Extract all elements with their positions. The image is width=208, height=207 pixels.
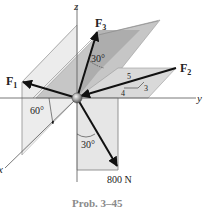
- f2-label: F2: [180, 61, 191, 77]
- slope-adj-label: 4: [121, 89, 125, 98]
- x-axis-label: x: [0, 163, 3, 175]
- figure-caption: Prob. 3–45: [72, 197, 123, 207]
- f1-label: F1: [6, 74, 17, 90]
- f1-angle-label: 60°: [30, 105, 44, 116]
- f4-angle-label: 30°: [81, 139, 95, 150]
- slope-hyp-label: 5: [127, 72, 131, 81]
- z-axis-label: z: [73, 0, 79, 12]
- slope-opp-label: 3: [144, 84, 148, 93]
- y-axis-label: y: [196, 92, 202, 104]
- origin-particle: [72, 93, 82, 103]
- f3-angle-label: 30°: [91, 53, 105, 64]
- f4-label: 800 N: [107, 174, 132, 185]
- force-diagram: z y x 5 4 3 60° 30° 30° F1 F3 F2 800 N P…: [0, 0, 208, 207]
- f3-label: F3: [95, 16, 106, 32]
